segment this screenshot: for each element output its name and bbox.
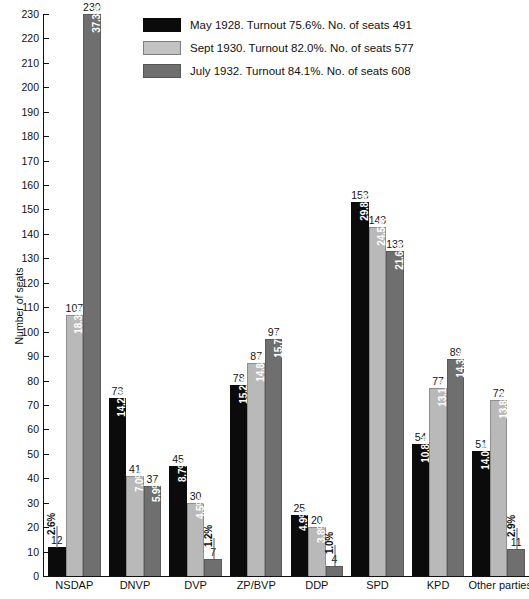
bar[interactable]: 14324.5% — [369, 227, 387, 576]
x-axis-line — [44, 576, 529, 577]
series-2-swatch — [143, 41, 181, 55]
bar-group: 5114.0%7213.8%112.9% — [472, 14, 525, 576]
bar[interactable]: 8714.8% — [247, 363, 265, 576]
legend-item[interactable]: July 1932. Turnout 84.1%. No. of seats 6… — [143, 60, 414, 81]
bar-group: 458.7%304.5%71.2% — [169, 14, 222, 576]
callout-leader-line — [57, 526, 58, 548]
y-tick-label: 50 — [0, 449, 39, 459]
y-tick-label: 80 — [0, 376, 39, 386]
bar[interactable]: 254.9% — [291, 515, 309, 576]
bar[interactable]: 10718.3% — [66, 315, 84, 576]
y-tick-label: 110 — [0, 302, 39, 312]
bar[interactable]: 375.9% — [144, 486, 162, 576]
plot-area: 122.6%10718.3%23037.3%7314.2%417.0%375.9… — [44, 14, 529, 576]
bar-group: 254.9%203.8%41.0% — [291, 14, 344, 576]
bar-chart: Number of seats 010203040506070809010011… — [0, 0, 529, 599]
y-tick-label: 10 — [0, 547, 39, 557]
y-tick-label: 150 — [0, 204, 39, 214]
y-tick-label: 160 — [0, 180, 39, 190]
x-axis-label: ZP/BVP — [226, 579, 287, 591]
y-tick-label: 180 — [0, 131, 39, 141]
y-tick-label: 40 — [0, 473, 39, 483]
y-tick-label: 170 — [0, 156, 39, 166]
x-axis-label: DNVP — [105, 579, 166, 591]
y-tick-label: 200 — [0, 82, 39, 92]
bar[interactable]: 5410.8% — [412, 444, 430, 576]
y-tick-label: 130 — [0, 253, 39, 263]
bar[interactable]: 122.6% — [48, 547, 66, 576]
bar-percent-label: 21.6% — [395, 242, 405, 269]
bar[interactable]: 71.2% — [204, 559, 222, 576]
y-tick-label: 140 — [0, 229, 39, 239]
x-axis-label: NSDAP — [44, 579, 105, 591]
bar-percent-label: 1.2% — [202, 525, 213, 547]
x-axis-label: KPD — [408, 579, 469, 591]
x-axis-label: SPD — [347, 579, 408, 591]
bar-percent-label: 14.2% — [117, 389, 127, 416]
y-tick-label: 70 — [0, 400, 39, 410]
x-axis-label: DDP — [287, 579, 348, 591]
series-3-swatch — [143, 64, 181, 78]
bar[interactable]: 7815.2% — [230, 385, 248, 576]
legend: May 1928. Turnout 75.6%. No. of seats 49… — [143, 14, 414, 83]
bar[interactable]: 417.0% — [126, 476, 144, 576]
bar[interactable]: 9715.7% — [265, 339, 283, 576]
bar[interactable]: 23037.3% — [83, 14, 101, 576]
y-tick-label: 30 — [0, 498, 39, 508]
bar-percent-label: 14.3% — [456, 350, 466, 377]
y-tick-label: 20 — [0, 522, 39, 532]
bar-percent-label: 2.9% — [505, 515, 516, 537]
bar[interactable]: 7314.2% — [109, 398, 127, 576]
legend-item-label: July 1932. Turnout 84.1%. No. of seats 6… — [190, 65, 411, 77]
bar-percent-label: 8.7% — [178, 460, 188, 482]
y-tick-label: 0 — [0, 571, 39, 581]
bar-percent-label: 2.6% — [46, 513, 57, 535]
bar-group: 122.6%10718.3%23037.3% — [48, 14, 101, 576]
bar-group: 5410.8%7713.1%8914.3% — [412, 14, 465, 576]
bar-group: 7314.2%417.0%375.9% — [109, 14, 162, 576]
bar[interactable]: 112.9% — [507, 549, 525, 576]
bar-percent-label: 1.0% — [323, 532, 334, 554]
bar-group: 7815.2%8714.8%9715.7% — [230, 14, 283, 576]
y-tick-label: 60 — [0, 424, 39, 434]
legend-item[interactable]: Sept 1930. Turnout 82.0%. No. of seats 5… — [143, 37, 414, 58]
bar[interactable]: 41.0% — [326, 566, 344, 576]
legend-item[interactable]: May 1928. Turnout 75.6%. No. of seats 49… — [143, 14, 414, 35]
legend-item-label: Sept 1930. Turnout 82.0%. No. of seats 5… — [190, 42, 414, 54]
bar[interactable]: 458.7% — [169, 466, 187, 576]
y-tick-label: 210 — [0, 58, 39, 68]
x-axis-label: DVP — [165, 579, 226, 591]
bar-percent-label: 5.9% — [152, 480, 162, 502]
bar[interactable]: 7713.1% — [429, 388, 447, 576]
y-tick-label: 190 — [0, 107, 39, 117]
y-tick-label: 90 — [0, 351, 39, 361]
bar[interactable]: 8914.3% — [447, 359, 465, 576]
bar[interactable]: 5114.0% — [472, 451, 490, 576]
bar-percent-label: 15.7% — [274, 330, 284, 357]
bar-group: 15329.8%14324.5%13321.6% — [351, 14, 404, 576]
bar[interactable]: 7213.8% — [490, 400, 508, 576]
bar[interactable]: 15329.8% — [351, 202, 369, 576]
y-tick-label: 120 — [0, 278, 39, 288]
bar-percent-label: 4.5% — [196, 497, 206, 519]
y-tick-label: 230 — [0, 9, 39, 19]
bar-percent-label: 37.3% — [92, 5, 102, 32]
y-tick-label: 100 — [0, 327, 39, 337]
x-axis-label: Other parties — [468, 579, 529, 591]
series-1-swatch — [143, 18, 181, 32]
legend-item-label: May 1928. Turnout 75.6%. No. of seats 49… — [190, 19, 412, 31]
bar-percent-label: 13.8% — [499, 391, 509, 418]
bar[interactable]: 13321.6% — [386, 251, 404, 576]
y-tick-label: 220 — [0, 33, 39, 43]
